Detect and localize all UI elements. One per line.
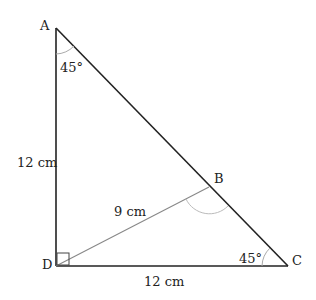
- angle-arc-a: [56, 46, 74, 54]
- side-ac: [56, 28, 288, 266]
- point-label-d: D: [42, 257, 52, 272]
- triangle-diagram: A B C D 45° 45° 12 cm 12 cm 9 cm: [0, 0, 316, 300]
- angle-arc-b: [186, 199, 228, 214]
- point-label-b: B: [214, 171, 224, 186]
- angle-arc-c: [262, 248, 270, 266]
- angle-label-c: 45°: [239, 251, 262, 266]
- point-label-c: C: [292, 253, 302, 268]
- length-label-dc: 12 cm: [144, 274, 184, 289]
- length-label-db: 9 cm: [114, 204, 146, 219]
- angle-label-a: 45°: [60, 60, 83, 75]
- length-label-ad: 12 cm: [17, 155, 57, 170]
- segment-db: [56, 187, 209, 266]
- point-label-a: A: [39, 18, 50, 33]
- right-angle-marker: [57, 253, 69, 265]
